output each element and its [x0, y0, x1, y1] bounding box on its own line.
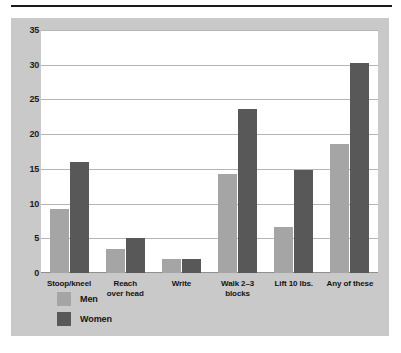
bar-men-0 — [50, 209, 69, 273]
bar-series-container — [41, 30, 378, 273]
bar-women-2 — [182, 259, 201, 273]
x-axis-label-line: blocks — [202, 289, 274, 299]
y-axis: 05101520253035 — [11, 30, 39, 273]
legend-item-men[interactable]: Men — [57, 290, 112, 307]
y-axis-tick-label: 20 — [13, 130, 39, 139]
bar-men-4 — [274, 227, 293, 273]
bar-men-3 — [218, 174, 237, 273]
bar-women-1 — [126, 238, 145, 273]
bar-women-0 — [70, 162, 89, 273]
top-rule-divider — [11, 5, 392, 7]
bar-women-3 — [238, 109, 257, 273]
plot-area — [41, 30, 378, 273]
legend-label: Women — [80, 314, 112, 324]
bar-men-2 — [162, 259, 181, 273]
bar-women-4 — [294, 170, 313, 273]
bar-men-5 — [330, 144, 349, 273]
y-axis-tick-label: 35 — [13, 26, 39, 35]
x-axis-label-line: Any of these — [314, 279, 386, 289]
chart-figure: 05101520253035 Stoop/kneelReachover head… — [0, 0, 401, 353]
legend-swatch-icon — [57, 312, 71, 326]
y-axis-tick-label: 0 — [13, 269, 39, 278]
y-axis-tick-label: 10 — [13, 200, 39, 209]
y-axis-tick-label: 25 — [13, 95, 39, 104]
x-axis-label-5: Any of these — [314, 279, 386, 289]
y-axis-tick-label: 5 — [13, 234, 39, 243]
chart-panel: 05101520253035 Stoop/kneelReachover head… — [11, 18, 389, 336]
bar-women-5 — [350, 63, 369, 273]
chart-legend: MenWomen — [57, 290, 112, 330]
legend-label: Men — [80, 294, 98, 304]
y-axis-tick-label: 15 — [13, 165, 39, 174]
legend-swatch-icon — [57, 292, 71, 306]
y-axis-tick-label: 30 — [13, 61, 39, 70]
bar-men-1 — [106, 249, 125, 273]
legend-item-women[interactable]: Women — [57, 310, 112, 327]
